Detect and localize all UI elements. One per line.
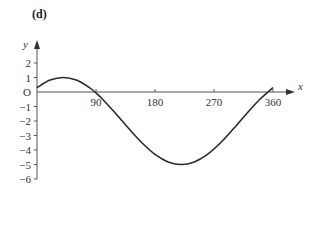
x-tick-label: 180 (147, 96, 164, 108)
x-tick-label: 270 (206, 96, 223, 108)
y-tick-label: 1 (26, 72, 32, 84)
y-tick-label: −4 (19, 144, 31, 156)
x-axis-arrow-icon (286, 89, 295, 95)
x-axis-label: x (297, 80, 303, 92)
y-tick-label: −5 (19, 159, 31, 171)
y-tick-label: −1 (19, 101, 31, 113)
y-tick-label: −6 (19, 173, 31, 185)
y-axis-arrow-icon (34, 40, 40, 49)
chart-plot: 9018027036021−1−2−3−4−5−6Oxy (0, 0, 318, 230)
x-tick-label: 360 (265, 96, 282, 108)
y-axis-label: y (22, 38, 28, 50)
y-tick-label: −3 (19, 130, 31, 142)
origin-label: O (23, 86, 31, 98)
y-tick-label: 2 (26, 57, 32, 69)
y-tick-label: −2 (19, 115, 31, 127)
